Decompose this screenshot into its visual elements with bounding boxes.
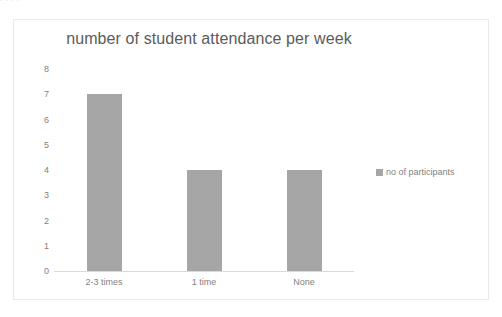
x-axis: 2-3 times1 timeNone (54, 276, 354, 294)
bar (187, 170, 222, 271)
y-axis-tick-label: 1 (27, 241, 49, 250)
y-axis-tick-label: 8 (27, 65, 49, 74)
y-axis-tick-label: 4 (27, 166, 49, 175)
x-axis-tick-label: 2-3 times (54, 276, 154, 288)
y-axis-tick-label: 7 (27, 90, 49, 99)
y-axis-tick-label: 6 (27, 115, 49, 124)
bar (87, 94, 122, 271)
chart-container: number of student attendance per week 87… (13, 19, 489, 300)
plot-area (54, 69, 354, 271)
x-axis-tick-label: None (254, 276, 354, 288)
y-axis: 876543210 (27, 69, 49, 271)
x-axis-line (54, 271, 354, 272)
y-axis-tick-label: 5 (27, 140, 49, 149)
x-axis-tick-label: 1 time (154, 276, 254, 288)
y-axis-tick-label: 3 (27, 191, 49, 200)
cutoff-text-fragment-label: · · · · (0, 0, 20, 5)
y-axis-tick-label: 0 (27, 267, 49, 276)
bar (287, 170, 322, 271)
chart-legend: no of participants (376, 168, 455, 177)
y-axis-tick-label: 2 (27, 216, 49, 225)
cutoff-text-fragment: · · · · (0, 0, 502, 7)
chart-title: number of student attendance per week (14, 30, 404, 48)
legend-square-icon (376, 169, 383, 176)
legend-series-label: no of participants (386, 168, 455, 177)
